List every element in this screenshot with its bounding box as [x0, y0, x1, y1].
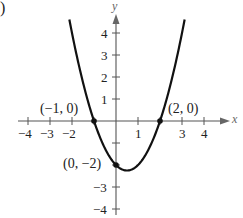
- point-label-neg1-0: (−1, 0): [40, 102, 78, 116]
- point-label-2-0: (2, 0): [168, 102, 198, 116]
- y-tick-label: 4: [101, 27, 108, 40]
- x-axis-arrow-icon: [220, 118, 230, 125]
- x-tick-label: 3: [179, 127, 186, 140]
- x-tick-label: 1: [135, 127, 142, 140]
- y-tick-label: −4: [93, 203, 107, 216]
- y-axis-arrow-icon: [113, 14, 120, 24]
- y-tick-label: 3: [101, 49, 108, 62]
- y-axis-label: y: [112, 0, 117, 12]
- x-tick-label: −4: [18, 127, 32, 140]
- y-tick-label: 1: [101, 93, 108, 106]
- x-tick-label: 4: [201, 127, 208, 140]
- x-tick-label: −3: [40, 127, 54, 140]
- x-tick-label: −2: [62, 127, 76, 140]
- panel-label: ): [0, 0, 5, 16]
- point-label-0-neg2: (0, −2): [63, 157, 101, 171]
- plot-canvas: [0, 0, 243, 218]
- x-axis-label: x: [232, 113, 237, 125]
- parabola-curve: [69, 19, 184, 170]
- y-tick-label: 2: [101, 71, 108, 84]
- y-tick-label: −3: [93, 181, 107, 194]
